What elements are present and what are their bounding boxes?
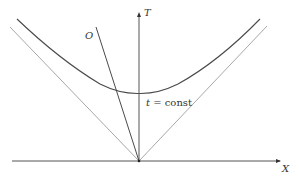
curve-label-rest: = const (150, 97, 192, 108)
spacetime-diagram: T X O t = const (0, 0, 299, 181)
x-axis-label: X (281, 163, 290, 174)
observer-label: O (85, 30, 93, 41)
left-light-cone-line (10, 27, 139, 161)
t-axis-arrowhead-icon (137, 12, 141, 17)
x-axis-arrowhead-icon (276, 159, 281, 163)
observer-worldline (96, 27, 139, 161)
right-light-cone-line (139, 26, 267, 161)
origin-point (138, 160, 141, 163)
curve-label: t = const (146, 97, 192, 108)
t-axis-label: T (144, 7, 152, 18)
